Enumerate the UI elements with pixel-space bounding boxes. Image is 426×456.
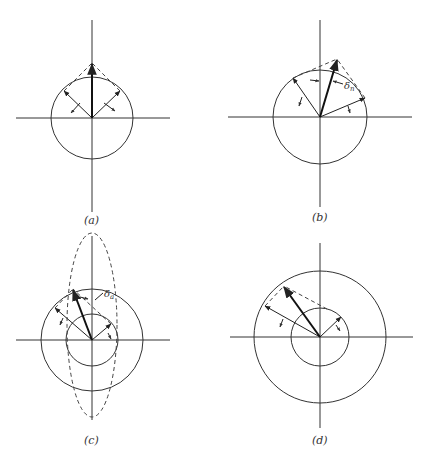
left-vector [293,78,320,117]
panel-a-label: (a) [84,214,99,227]
left-vector [265,306,320,337]
angle-marker-arrow [310,80,319,81]
dashed-left [293,59,337,78]
small-arrow-right [348,106,350,113]
panel-d-label: (d) [312,434,328,447]
panel-d: (d) [230,243,413,447]
panel-a: (a) [16,20,170,227]
small-arrow-left [280,319,283,327]
delta-n-label: δn [344,80,355,93]
panel-c: δa (c) [16,233,170,447]
delta-a-label: δa [104,288,114,301]
right-vector [92,324,111,340]
panel-c-label: (c) [84,434,99,447]
phasor-diagram-figure: (a) δn (b) δa (c) [0,0,426,456]
small-arrow-left [299,97,302,106]
small-arrow-right [108,333,111,339]
delta-n-pointer [333,81,343,84]
resultant-vector [320,60,337,117]
small-arrow-left [60,318,63,325]
small-arrow-right [104,103,115,111]
delta-a-pointer [95,293,103,300]
resultant-vector [284,287,320,337]
panel-b-label: (b) [312,211,328,224]
panel-b: δn (b) [228,20,412,224]
small-arrow-right [336,325,340,331]
small-arrow-left [71,103,80,113]
right-vector [320,98,365,117]
dashed-left [55,289,73,308]
